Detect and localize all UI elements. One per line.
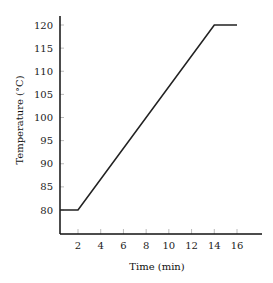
y-tick-label: 105 — [34, 89, 53, 100]
x-tick-label: 10 — [162, 240, 175, 251]
y-tick-label: 85 — [40, 181, 53, 192]
x-tick-label: 6 — [120, 240, 126, 251]
y-tick-label: 80 — [40, 205, 53, 216]
x-tick-label: 16 — [231, 240, 244, 251]
chart: 80859095100105110115120 246810121416 Tim… — [0, 0, 273, 283]
y-tick-label: 90 — [40, 158, 53, 169]
series-line — [60, 25, 237, 210]
x-tick-label: 4 — [98, 240, 104, 251]
x-tick-label: 8 — [143, 240, 149, 251]
x-tick-label: 12 — [185, 240, 198, 251]
y-tick-label: 95 — [40, 135, 53, 146]
x-tick-label: 2 — [75, 240, 81, 251]
y-axis-label: Temperature (°C) — [14, 75, 25, 164]
y-tick-label: 100 — [34, 112, 53, 123]
y-tick-label: 120 — [34, 20, 53, 31]
x-ticks: 246810121416 — [75, 229, 244, 251]
y-tick-label: 115 — [34, 43, 53, 54]
series-group — [60, 25, 237, 210]
x-tick-label: 14 — [208, 240, 221, 251]
x-axis-label: Time (min) — [129, 261, 184, 272]
y-tick-label: 110 — [34, 66, 53, 77]
